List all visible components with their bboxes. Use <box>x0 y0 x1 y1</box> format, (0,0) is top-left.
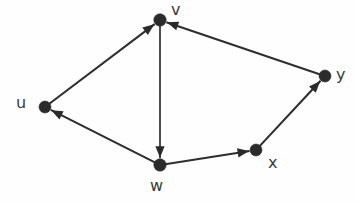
edge-w-u <box>51 110 156 163</box>
arrowhead-w-u <box>51 110 63 119</box>
arrowhead-v-w <box>155 146 164 158</box>
edge-x-y <box>259 81 320 147</box>
arrowhead-w-x <box>237 148 249 157</box>
node-label-y: y <box>336 67 345 83</box>
node-label-w: w <box>150 178 163 194</box>
node-v[interactable] <box>154 14 166 26</box>
nodes-group <box>39 14 331 171</box>
node-x[interactable] <box>250 144 262 156</box>
node-u[interactable] <box>39 101 51 113</box>
edge-y-v <box>166 22 320 74</box>
diagram-canvas: uvwxy <box>0 0 357 203</box>
graph-svg <box>0 0 357 203</box>
node-label-x: x <box>268 155 277 171</box>
arrowhead-y-v <box>167 22 179 31</box>
node-w[interactable] <box>154 159 166 171</box>
node-y[interactable] <box>319 70 331 82</box>
arrowhead-u-v <box>142 24 154 35</box>
node-label-u: u <box>16 95 26 111</box>
node-label-v: v <box>171 2 180 18</box>
arrowheads-group <box>51 22 320 158</box>
edge-u-v <box>49 24 155 104</box>
edge-w-x <box>165 151 249 164</box>
edges-group <box>49 22 321 164</box>
